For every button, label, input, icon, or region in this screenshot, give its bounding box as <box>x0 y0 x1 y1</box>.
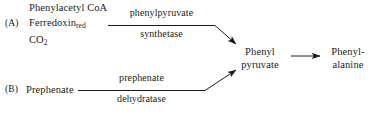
branch-letter-a: (A) <box>5 19 19 29</box>
pathway-diagram: (A) Phenylacetyl CoA Ferredoxinred CO2 p… <box>0 0 373 114</box>
arrow-b-to-phenylpyruvate <box>205 70 236 91</box>
substrate-phenylacetyl-coa: Phenylacetyl CoA <box>29 3 107 14</box>
branch-letter-b: (B) <box>5 85 18 95</box>
substrate-co2: CO2 <box>29 35 48 46</box>
substrate-ferredoxin-red: Ferredoxinred <box>29 18 86 29</box>
enzyme-b-top-label: prephenate <box>78 73 205 83</box>
enzyme-a-bottom-label: synthetase <box>108 29 215 39</box>
enzyme-b-bottom-label: dehydratase <box>78 94 205 104</box>
node-phenyl-pyruvate-line2: pyruvate <box>232 58 288 71</box>
enzyme-a-top-label: phenylpyruvate <box>108 8 215 18</box>
node-phenyl-alanine: Phenyl- alanine <box>322 45 373 72</box>
node-phenyl-alanine-line2: alanine <box>322 58 373 71</box>
substrate-co2-subscript: 2 <box>44 38 48 47</box>
node-phenyl-pyruvate-line1: Phenyl <box>232 45 288 58</box>
substrate-ferredoxin-name: Ferredoxin <box>29 17 76 28</box>
node-phenyl-alanine-line1: Phenyl- <box>322 45 373 58</box>
substrate-ferredoxin-subscript: red <box>76 21 86 30</box>
substrate-prephenate: Prephenate <box>26 85 74 96</box>
arrow-a-to-phenylpyruvate <box>215 26 236 45</box>
substrate-co2-name: CO <box>29 34 44 45</box>
node-phenyl-pyruvate: Phenyl pyruvate <box>232 45 288 72</box>
